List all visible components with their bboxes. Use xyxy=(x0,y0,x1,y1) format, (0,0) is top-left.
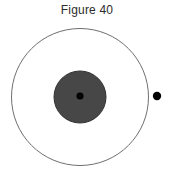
orbiting-particle-shape xyxy=(153,92,161,100)
diagram-canvas xyxy=(0,0,174,183)
figure-container: Figure 40 xyxy=(0,0,174,183)
nucleus-center-point-shape xyxy=(76,92,83,99)
